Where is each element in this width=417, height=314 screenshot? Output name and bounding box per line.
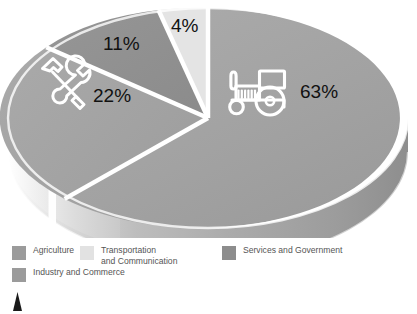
legend-item-services: Services and Government — [222, 245, 342, 260]
legend-swatch-agriculture — [12, 246, 26, 260]
slice-label-agriculture: 63% — [300, 81, 338, 103]
pie-chart-graphic: 63% 22% 11% 4% — [0, 0, 417, 238]
slice-label-services: 11% — [103, 33, 140, 55]
pie-chart-figure: 63% 22% 11% 4% Agriculture Transportatio… — [0, 0, 417, 314]
arrow-marker-icon — [10, 292, 26, 312]
slice-label-transportation: 4% — [171, 15, 198, 37]
legend-label-industry: Industry and Commerce — [33, 267, 125, 278]
legend-swatch-industry — [12, 268, 26, 282]
legend-label-services: Services and Government — [243, 245, 342, 256]
legend-label-transportation: Transportation and Communication — [101, 245, 177, 266]
legend-label-agriculture: Agriculture — [33, 245, 74, 256]
legend-item-transportation: Transportation and Communication — [80, 245, 177, 266]
legend-item-agriculture: Agriculture — [12, 245, 74, 260]
pie-top-face — [0, 8, 408, 228]
legend-item-industry: Industry and Commerce — [12, 267, 125, 282]
chart-legend: Agriculture Transportation and Communica… — [0, 240, 417, 290]
legend-swatch-services — [222, 246, 236, 260]
slice-label-industry: 22% — [93, 85, 131, 107]
legend-swatch-transportation — [80, 246, 94, 260]
pie-svg — [0, 0, 417, 238]
